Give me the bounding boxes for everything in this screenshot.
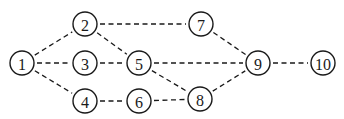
edge-1-2 [35,32,72,55]
node-1: 1 [10,51,34,75]
edge-8-9 [213,71,246,91]
node-label: 9 [254,56,262,73]
node-label: 3 [81,56,89,73]
node-7: 7 [189,12,213,36]
node-label: 2 [81,17,89,34]
node-8: 8 [188,87,212,111]
node-label: 1 [18,56,26,73]
node-label: 10 [315,56,331,73]
edge-5-8 [152,71,187,92]
node-label: 4 [81,94,89,111]
node-6: 6 [127,89,151,113]
node-label: 5 [135,56,143,73]
node-label: 6 [135,94,143,111]
edge-7-9 [213,32,245,54]
edge-1-4 [35,71,72,94]
node-label: 7 [197,17,205,34]
node-9: 9 [246,51,270,75]
edge-6-8 [154,99,185,100]
node-3: 3 [73,51,97,75]
node-label: 8 [196,92,204,109]
node-2: 2 [73,12,97,36]
node-10: 10 [311,51,335,75]
node-5: 5 [127,51,151,75]
edge-2-5 [97,33,127,54]
node-4: 4 [73,89,97,113]
network-diagram: 12345678910 [0,0,344,119]
